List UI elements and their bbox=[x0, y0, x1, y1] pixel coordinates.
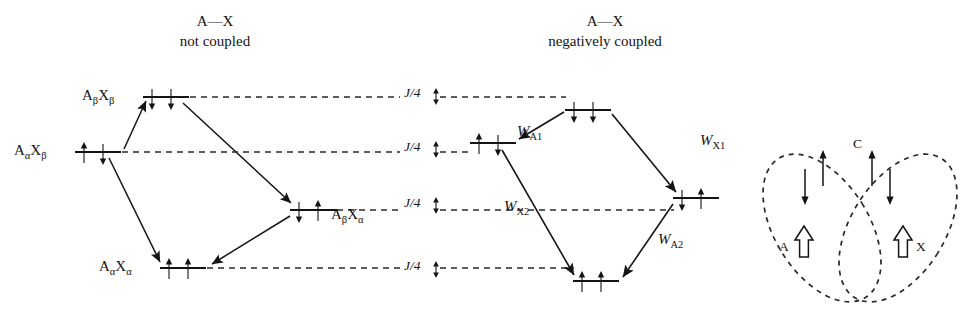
level-abxb-left bbox=[143, 89, 189, 110]
left-panel-dashed-refs bbox=[122, 97, 400, 268]
spin-arrow-down bbox=[296, 202, 302, 223]
j-label-2: J/4 bbox=[404, 140, 421, 154]
cartoon-label-A: A bbox=[779, 240, 789, 254]
spin-arrow-down bbox=[679, 190, 685, 211]
transition-aaxb-to-aaxa bbox=[109, 158, 160, 262]
left-panel-levels bbox=[75, 89, 336, 279]
left-panel-title-line2: not coupled bbox=[145, 34, 285, 49]
cartoon-label-C: C bbox=[853, 137, 862, 151]
transition-abxb-to-aaxb bbox=[124, 101, 146, 149]
state-label-aaxb: AαXβ bbox=[14, 143, 47, 162]
spin-arrow-down bbox=[100, 144, 106, 165]
level-aaxb-left bbox=[75, 142, 121, 165]
j-gap-markers bbox=[433, 88, 439, 278]
cartoon-arrow-a-down bbox=[801, 169, 808, 205]
cartoon-arrow-a-up bbox=[819, 150, 826, 186]
level-abxa-left bbox=[290, 200, 336, 223]
ellipse-X bbox=[815, 134, 975, 323]
level-aaxa-left bbox=[160, 258, 206, 279]
level-aaxb-right bbox=[470, 133, 516, 156]
spin-arrow-down bbox=[571, 102, 577, 123]
cartoon-hollow-arrow-x bbox=[894, 226, 912, 257]
j-label-3: J/4 bbox=[404, 196, 421, 210]
transition-WX1 bbox=[612, 114, 676, 192]
figure-canvas: A—X not coupled A—X negatively coupled A… bbox=[0, 0, 975, 324]
j-label-4: J/4 bbox=[404, 259, 421, 273]
j-marker-2 bbox=[433, 141, 439, 158]
right-panel-title-line1: A—X bbox=[545, 14, 665, 29]
j-label-1: J/4 bbox=[404, 86, 421, 100]
transition-label-WA2: WA2 bbox=[658, 232, 683, 251]
right-panel-dashed-refs bbox=[440, 97, 674, 268]
left-panel-transitions bbox=[109, 101, 291, 264]
level-abxa-right bbox=[673, 188, 719, 211]
state-label-abxb: AβXβ bbox=[82, 88, 114, 107]
state-label-aaxa: AαXα bbox=[99, 259, 132, 278]
ellipse-A bbox=[739, 134, 906, 323]
right-panel-levels bbox=[470, 102, 719, 292]
transition-abxb-to-abxa bbox=[183, 103, 291, 203]
transition-label-WX2: WX2 bbox=[504, 199, 529, 218]
j-marker-3 bbox=[433, 197, 439, 214]
j-marker-1 bbox=[433, 88, 439, 105]
j-marker-4 bbox=[433, 261, 439, 278]
spin-arrow-down bbox=[168, 89, 174, 110]
transition-label-WX1: WX1 bbox=[700, 133, 725, 152]
level-abxb-right bbox=[565, 102, 611, 123]
state-label-abxa: AβXα bbox=[331, 207, 364, 226]
cartoon-hollow-arrow-a bbox=[795, 226, 813, 257]
spin-arrow-down bbox=[590, 102, 596, 123]
cartoon-label-X: X bbox=[916, 240, 926, 254]
right-panel-title-line2: negatively coupled bbox=[510, 34, 700, 49]
level-aaxa-right bbox=[573, 271, 619, 292]
cartoon-dipolar-pair bbox=[739, 134, 975, 323]
transition-abxa-to-aaxa bbox=[212, 216, 290, 264]
cartoon-arrow-x-down bbox=[886, 169, 893, 205]
left-panel-title-line1: A—X bbox=[155, 14, 275, 29]
spin-arrow-down bbox=[495, 135, 501, 156]
spin-arrow-down bbox=[149, 89, 155, 110]
transition-label-WA1: WA1 bbox=[517, 124, 542, 143]
